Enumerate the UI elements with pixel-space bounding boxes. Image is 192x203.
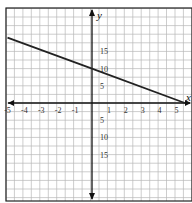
y-tick-label-negative: 15: [100, 151, 108, 160]
y-tick-label-negative: 10: [100, 133, 108, 142]
y-tick-label: 15: [100, 47, 108, 56]
y-tick-label: 5: [100, 82, 104, 91]
y-axis-up-arrow-icon: [89, 9, 95, 16]
y-axis-down-arrow-icon: [89, 193, 95, 200]
x-tick-label: 3: [141, 106, 145, 115]
x-axis-label: x: [185, 91, 191, 103]
y-tick-label-negative: 5: [100, 116, 104, 125]
x-tick-label: -2: [55, 106, 62, 115]
x-tick-label: 5: [175, 106, 179, 115]
x-tick-label: 2: [124, 106, 128, 115]
x-tick-label: 1: [107, 106, 111, 115]
grid-lines: [6, 8, 192, 201]
x-tick-label: -1: [72, 106, 79, 115]
x-tick-label: -4: [21, 106, 28, 115]
x-tick-label: 4: [158, 106, 162, 115]
x-tick-label: -3: [38, 106, 45, 115]
x-tick-label: -5: [4, 106, 11, 115]
axes: [8, 9, 191, 200]
y-axis-label: y: [96, 9, 102, 21]
coordinate-plane: -5-4-3-2-1123455101551015 x y: [0, 0, 192, 203]
